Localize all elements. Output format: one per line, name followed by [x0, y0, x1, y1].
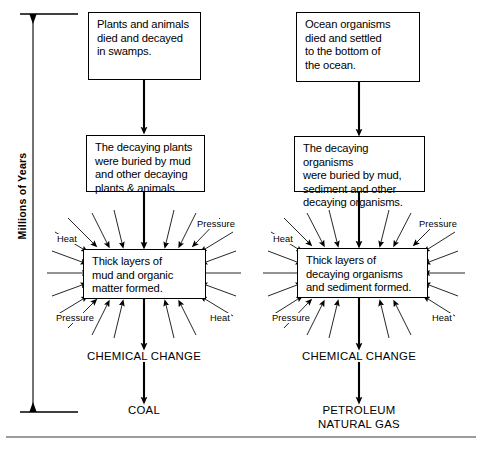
petroleum-chemical-change-label: CHEMICAL CHANGE — [284, 349, 434, 363]
coal-force-heat-bottom-right: Heat — [209, 313, 231, 323]
petroleum-force-pressure-bottom-left: Pressure — [271, 313, 311, 323]
coal-force-heat-top-left: Heat — [56, 234, 78, 244]
coal-step-2-box: The decaying plants were buried by mud a… — [86, 135, 205, 192]
coal-step-3-box: Thick layers of mud and organic matter f… — [83, 249, 206, 299]
coal-force-pressure-bottom-left: Pressure — [55, 313, 95, 323]
time-axis-label: Millions of Years — [16, 141, 28, 251]
petroleum-step-3-box: Thick layers of decaying organisms and s… — [297, 248, 428, 298]
coal-step-1-box: Plants and animals died and decayed in s… — [88, 12, 201, 80]
fossil-fuel-formation-diagram: Millions of Years Plants and animals die… — [0, 0, 482, 451]
coal-chemical-change-label: CHEMICAL CHANGE — [69, 349, 219, 363]
coal-force-pressure-top-right: Pressure — [196, 219, 236, 229]
petroleum-force-pressure-top-right: Pressure — [418, 219, 458, 229]
petroleum-force-heat-top-left: Heat — [272, 234, 294, 244]
petroleum-force-heat-bottom-right: Heat — [431, 313, 453, 323]
petroleum-step-1-box: Ocean organisms died and settled to the … — [296, 12, 420, 82]
coal-product-label: COAL — [94, 403, 194, 417]
petroleum-step-2-box: The decaying organisms were buried by mu… — [294, 136, 425, 192]
petroleum-product-label: PETROLEUM NATURAL GAS — [299, 403, 419, 431]
